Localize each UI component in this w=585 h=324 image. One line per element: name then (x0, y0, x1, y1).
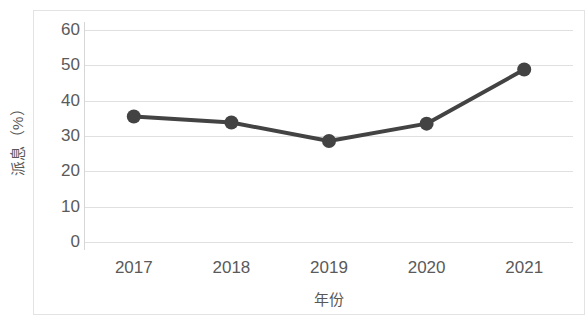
y-axis-title: 派息（%） (6, 79, 27, 199)
y-tick-label: 60 (40, 20, 80, 40)
x-tick-label: 2020 (387, 258, 467, 278)
y-tick-label: 10 (40, 197, 80, 217)
y-tick-label: 40 (40, 91, 80, 111)
x-axis-title: 年份 (85, 288, 573, 309)
data-point-marker (127, 110, 141, 124)
gridline (85, 242, 573, 243)
data-point-marker (517, 63, 531, 77)
x-tick-label: 2018 (191, 258, 271, 278)
y-tick-label: 50 (40, 55, 80, 75)
x-axis-tick-labels: 20172018201920202021 (85, 258, 573, 282)
x-tick-label: 2017 (94, 258, 174, 278)
data-point-marker (224, 116, 238, 130)
data-point-marker (322, 134, 336, 148)
line-series-2021-payout (85, 30, 573, 242)
x-tick-label: 2019 (289, 258, 369, 278)
series-line (134, 70, 524, 141)
y-tick-label: 0 (40, 232, 80, 252)
y-tick-label: 30 (40, 126, 80, 146)
y-tick-label: 20 (40, 161, 80, 181)
y-axis-tick-labels: 0102030405060 (36, 30, 80, 242)
plot-area (85, 30, 573, 242)
x-tick-label: 2021 (484, 258, 564, 278)
series-markers (127, 63, 531, 148)
data-point-marker (420, 117, 434, 131)
